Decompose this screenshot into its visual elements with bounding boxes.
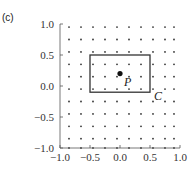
field-dot (104, 113, 106, 115)
field-dot (104, 63, 106, 65)
x-tick-label: −0.5 (80, 151, 100, 163)
field-dot (140, 138, 142, 140)
field-dot (116, 113, 118, 115)
field-dot (164, 51, 166, 53)
field-dot (116, 26, 118, 28)
field-dot (116, 51, 118, 53)
field-dot (80, 51, 82, 53)
field-dot (104, 101, 106, 103)
field-dot (128, 113, 130, 115)
field-dot (173, 76, 175, 78)
field-dot (104, 88, 106, 90)
field-dot (92, 125, 94, 127)
field-dot (104, 51, 106, 53)
field-dot (140, 51, 142, 53)
field-dot (152, 76, 154, 78)
field-dot (68, 76, 70, 78)
field-dot (68, 26, 70, 28)
field-dot (173, 125, 175, 127)
field-dot (152, 113, 154, 115)
field-dot (128, 63, 130, 65)
dot-grid (68, 26, 175, 149)
field-dot (164, 138, 166, 140)
field-dot (104, 138, 106, 140)
x-tick-label: −1.0 (50, 151, 70, 163)
field-dot (128, 39, 130, 41)
field-dot (116, 125, 118, 127)
y-tick-label: 0.5 (40, 49, 54, 61)
field-dot (80, 26, 82, 28)
field-dot (92, 88, 94, 90)
field-dot (140, 39, 142, 41)
field-dot (116, 101, 118, 103)
field-dot (164, 26, 166, 28)
field-dot (152, 138, 154, 140)
field-dot (104, 26, 106, 28)
field-dot (140, 63, 142, 65)
field-dot (164, 101, 166, 103)
field-dot (92, 39, 94, 41)
field-dot (68, 125, 70, 127)
field-dot (164, 113, 166, 115)
field-dot (68, 88, 70, 90)
field-dot (128, 138, 130, 140)
field-dot (140, 113, 142, 115)
field-dot (128, 101, 130, 103)
field-dot (173, 51, 175, 53)
field-dot (68, 101, 70, 103)
field-dot (152, 51, 154, 53)
field-dot (80, 76, 82, 78)
field-dot (173, 39, 175, 41)
field-dot (116, 138, 118, 140)
field-dot (68, 39, 70, 41)
field-dot (68, 113, 70, 115)
field-dot (173, 63, 175, 65)
x-tick-label: 0.5 (143, 151, 157, 163)
field-dot (140, 76, 142, 78)
field-dot (140, 101, 142, 103)
field-dot (116, 88, 118, 90)
field-dot (164, 39, 166, 41)
label-p: P (123, 75, 132, 89)
field-dot (68, 63, 70, 65)
field-dot (152, 26, 154, 28)
field-dot (80, 39, 82, 41)
field-dot (140, 26, 142, 28)
x-tick-label: 1.0 (173, 151, 187, 163)
field-dot (173, 113, 175, 115)
field-dot (92, 51, 94, 53)
field-dot (92, 101, 94, 103)
field-dot (92, 113, 94, 115)
y-tick-label: 1.0 (40, 18, 54, 30)
field-dot (104, 125, 106, 127)
vector-field-plot: 1.00.50.0−0.5−1.0−1.0−0.50.00.51.0 P C (0, 0, 194, 173)
field-dot (68, 138, 70, 140)
field-dot (68, 51, 70, 53)
field-dot (92, 138, 94, 140)
field-dot (80, 138, 82, 140)
field-dot (152, 39, 154, 41)
field-dot (173, 101, 175, 103)
field-dot (104, 39, 106, 41)
y-tick-label: −0.5 (34, 111, 54, 123)
field-dot (164, 63, 166, 65)
field-dot (104, 76, 106, 78)
field-dot (173, 88, 175, 90)
field-dot (164, 76, 166, 78)
field-dot (128, 125, 130, 127)
label-c: C (154, 89, 163, 103)
field-dot (80, 113, 82, 115)
field-dot (116, 76, 118, 78)
x-tick-label: 0.0 (113, 151, 127, 163)
field-dot (92, 26, 94, 28)
field-dot (92, 76, 94, 78)
field-dot (128, 51, 130, 53)
field-dot (116, 63, 118, 65)
field-dot (164, 125, 166, 127)
y-tick-label: 0.0 (40, 80, 54, 92)
field-dot (173, 138, 175, 140)
point-p (117, 71, 122, 76)
field-dot (116, 39, 118, 41)
field-dot (80, 101, 82, 103)
field-dot (80, 125, 82, 127)
